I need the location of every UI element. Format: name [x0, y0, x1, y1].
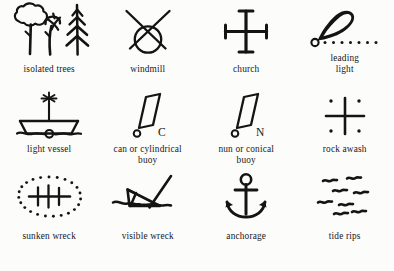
symbol-cell-rock-awash[interactable]: rock awash [296, 90, 394, 172]
symbol-label: church [233, 64, 259, 75]
leading-light-icon [296, 0, 394, 52]
tide-rips-icon [296, 172, 394, 228]
symbol-label: windmill [130, 64, 165, 75]
chart-symbol-legend: isolated trees windmill [0, 0, 394, 271]
symbol-label: anchorage [226, 231, 266, 242]
svg-text:N: N [256, 126, 265, 138]
symbol-cell-leading-light[interactable]: leading light [296, 0, 394, 90]
symbol-cell-windmill[interactable]: windmill [99, 0, 198, 90]
symbol-cell-isolated-trees[interactable]: isolated trees [0, 0, 99, 90]
symbol-cell-tide-rips[interactable]: tide rips [296, 172, 394, 258]
symbol-cell-church[interactable]: church [197, 0, 296, 90]
nun-buoy-icon: N [197, 90, 296, 142]
can-buoy-icon: C [99, 90, 198, 142]
symbol-cell-sunken-wreck[interactable]: sunken wreck [0, 172, 99, 258]
anchor-icon [197, 172, 296, 228]
symbol-cell-anchorage[interactable]: anchorage [197, 172, 296, 258]
isolated-trees-icon [0, 0, 99, 62]
symbol-label: tide rips [329, 231, 361, 242]
sunken-wreck-icon [0, 172, 99, 228]
symbol-label: sunken wreck [22, 231, 76, 242]
symbol-cell-visible-wreck[interactable]: visible wreck [99, 172, 198, 258]
church-cross-icon [197, 0, 296, 62]
symbol-label: rock awash [323, 144, 367, 155]
symbol-label: can or cylindrical buoy [114, 144, 182, 165]
windmill-icon [99, 0, 198, 62]
symbol-cell-light-vessel[interactable]: light vessel [0, 90, 99, 172]
symbol-label: light vessel [27, 144, 71, 155]
symbol-cell-can-buoy[interactable]: C can or cylindrical buoy [99, 90, 198, 172]
visible-wreck-icon [99, 172, 198, 228]
light-vessel-icon [0, 90, 99, 142]
symbol-cell-nun-buoy[interactable]: N nun or conical buoy [197, 90, 296, 172]
symbol-label: visible wreck [122, 231, 174, 242]
symbol-grid: isolated trees windmill [0, 0, 394, 271]
symbol-label: isolated trees [24, 64, 75, 75]
symbol-label: leading light [330, 53, 359, 74]
rock-awash-icon [296, 90, 394, 142]
svg-text:C: C [158, 126, 166, 138]
symbol-label: nun or conical buoy [218, 144, 274, 165]
